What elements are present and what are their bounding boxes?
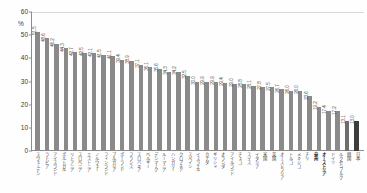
x-label-slot: メキシコ (294, 152, 302, 193)
bar-value-label: 36.1 (146, 62, 151, 71)
bar: 41.1 (110, 56, 114, 151)
bar-slot: 35.6 (155, 12, 164, 151)
bar-value-label: 26.7 (277, 84, 282, 93)
x-label-slot: 日本 (352, 152, 360, 193)
bar-slot: 17.4 (324, 12, 333, 151)
bar-slot: 26.7 (277, 12, 286, 151)
bar-value-label: 19.2 (314, 101, 319, 110)
x-axis-label: オーストリア (321, 152, 325, 175)
x-label-slot: イタリア (252, 152, 260, 193)
bar: 30.0 (195, 82, 199, 152)
bar-value-label: 42.7 (71, 47, 76, 56)
x-axis-label: ラトビア (43, 152, 47, 167)
x-label-slot: 米国 (260, 152, 268, 193)
bar-value-label: 34.2 (174, 67, 179, 76)
x-label-slot: チリ (302, 152, 310, 193)
bar: 26.7 (279, 89, 283, 151)
x-label-slot: 豪州 (310, 152, 318, 193)
bar: 48.6 (45, 38, 49, 151)
x-label-slot: スロバキア (134, 152, 142, 193)
x-label-slot: スペイン (184, 152, 192, 193)
bar-value-label: 51.5 (33, 26, 38, 35)
x-axis-label: スペイン (186, 152, 190, 167)
x-axis-label: アイスランド (52, 152, 56, 175)
x-label-slot: オランダ (218, 152, 226, 193)
x-label-slot: ポーランド (117, 152, 125, 193)
x-axis-label: チェコ (237, 152, 241, 164)
x-axis-label: トルコ (287, 152, 291, 164)
x-label-slot: スウェーデン (33, 152, 41, 193)
bar-value-label: 17.4 (324, 105, 329, 114)
bar-slot: 44.3 (61, 12, 70, 151)
bar: 51.5 (35, 32, 39, 151)
x-axis-label: ポーランド (119, 152, 123, 171)
bar: 41.5 (101, 55, 105, 151)
bar-value-label: 17.2 (333, 106, 338, 115)
bar-slot: 19.2 (314, 12, 323, 151)
bar: 35.6 (157, 69, 161, 151)
x-axis-label: イタリア (254, 152, 258, 167)
bar: 17.4 (326, 111, 330, 151)
bar-value-label: 35.6 (155, 63, 160, 72)
bar: 44.3 (64, 48, 68, 151)
bar-value-label: 27.5 (267, 82, 272, 91)
bar: 34.2 (176, 72, 180, 151)
bar-slot: 23.6 (305, 12, 314, 151)
bar-value-label: 42.5 (80, 47, 85, 56)
x-axis-label: 日本 (354, 152, 358, 160)
x-axis-label: スウェーデン (35, 152, 39, 175)
x-label-slot: 英国 (268, 152, 276, 193)
x-label-slot: アイルランド (226, 152, 234, 193)
x-label-slot: トルコ (285, 152, 293, 193)
bar: 27.5 (270, 87, 274, 151)
x-axis-label: 韓国 (346, 152, 350, 160)
bar: 26.0 (289, 91, 293, 151)
y-axis-unit: % (18, 21, 24, 28)
bar-value-label: 29.4 (221, 78, 226, 87)
x-axis-label: メキシコ (296, 152, 300, 167)
bar-value-label: 41.5 (99, 50, 104, 59)
x-axis-label: イスラエル (195, 152, 199, 171)
bar: 23.6 (307, 96, 311, 151)
bar: 29.4 (223, 83, 227, 151)
x-axis-label: スイス (245, 152, 249, 164)
bar-value-label: 37.1 (136, 60, 141, 69)
x-label-slot: エストニア (83, 152, 91, 193)
bar: 38.9 (129, 61, 133, 151)
bar-value-label: 28.8 (239, 79, 244, 88)
x-axis-label: フランス (127, 152, 131, 167)
x-label-slot: カナダ (201, 152, 209, 193)
bar: 29.0 (232, 84, 236, 151)
x-axis-label: リトアニア (69, 152, 73, 171)
bar-value-label: 23.6 (305, 91, 310, 100)
x-label-slot: ルーマニア (159, 152, 167, 193)
bar-value-label: 34.3 (164, 66, 169, 75)
bar-slot: 13.0 (352, 12, 361, 151)
x-label-slot: ラトビア (41, 152, 49, 193)
bar: 28.8 (242, 84, 246, 151)
x-axis-label: デンマーク (153, 152, 157, 171)
bar: 26.0 (298, 91, 302, 151)
x-axis-label: カナダ (203, 152, 207, 164)
x-axis-label: ルーマニア (161, 152, 165, 171)
bar: 34.3 (167, 72, 171, 151)
bar: 13.1 (345, 121, 349, 151)
bar: 42.7 (73, 52, 77, 151)
x-axis-label: ポルトガル (60, 152, 64, 171)
x-label-slot: 韓国 (344, 152, 352, 193)
bar: 27.8 (260, 87, 264, 151)
bar: 36.1 (148, 67, 152, 151)
x-axis-label: クロアチア (178, 152, 182, 171)
bar-slot: 37.1 (136, 12, 145, 151)
bar-slot: 41.1 (108, 12, 117, 151)
bar-value-label: 42.1 (89, 48, 94, 57)
x-axis-label: アイルランド (228, 152, 232, 175)
x-label-slot: スイス (243, 152, 251, 193)
bar: 37.1 (139, 65, 143, 151)
bar-value-label: 41.1 (108, 51, 113, 60)
bar-value-label: 13.0 (352, 116, 357, 125)
bar-chart: % 0102030405060 51.548.646.244.342.742.5… (0, 0, 367, 193)
x-label-slot: ブルガリア (109, 152, 117, 193)
bar: 39.4 (120, 60, 124, 151)
bar: 32.5 (185, 76, 189, 151)
